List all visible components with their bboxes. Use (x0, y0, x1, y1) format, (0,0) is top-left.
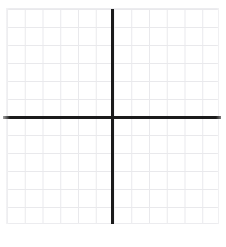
y-axis-line (111, 9, 114, 224)
watermark-text (146, 232, 218, 239)
coordinate-plane-figure (0, 0, 226, 247)
